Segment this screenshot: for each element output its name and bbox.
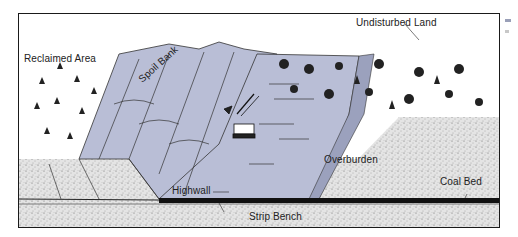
label-strip-bench: Strip Bench [249, 212, 302, 222]
label-reclaimed-area: Reclaimed Area [24, 54, 96, 64]
label-highwall: Highwall [172, 186, 211, 196]
label-overburden: Overburden [324, 155, 378, 165]
mine-cross-section [19, 14, 500, 228]
label-undisturbed-land: Undisturbed Land [356, 18, 437, 28]
label-coal-bed: Coal Bed [440, 177, 482, 187]
diagram-frame: Reclaimed Area Spoil Bank Undisturbed La… [18, 13, 500, 228]
coal-bed [159, 198, 500, 203]
margin-mark [505, 30, 509, 33]
margin-mark [505, 19, 511, 22]
